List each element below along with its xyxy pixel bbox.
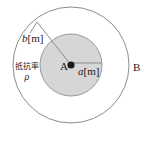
point-a-label: A [60, 61, 68, 72]
inner-radius-label: a[m] [78, 66, 99, 77]
outer-radius-label: b[m] [22, 33, 43, 44]
outer-radius-unit: [m] [28, 32, 44, 44]
physics-diagram-figure: b[m] a[m] A B 抵抗率 ρ [0, 0, 149, 148]
resistivity-caption: 抵抗率 [7, 63, 47, 71]
resistivity-symbol: ρ [7, 72, 47, 82]
point-b-label: B [133, 62, 140, 73]
resistivity-label: 抵抗率 ρ [7, 63, 47, 82]
inner-radius-unit: [m] [84, 65, 100, 77]
center-point-dot [67, 61, 74, 68]
